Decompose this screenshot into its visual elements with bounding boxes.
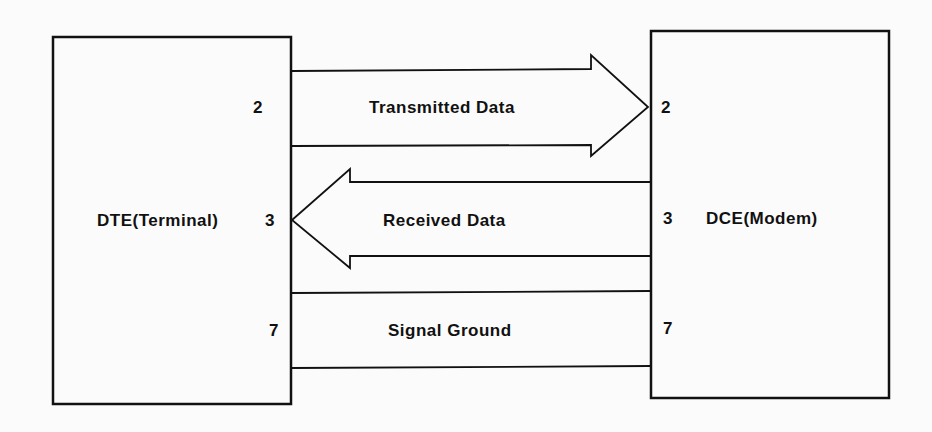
dte-pin-7: 7	[269, 321, 279, 341]
dce-pin-3: 3	[663, 209, 673, 229]
dce-pin-2: 2	[661, 98, 671, 118]
dce-pin-7: 7	[663, 319, 673, 339]
signal-ground-line-bottom	[292, 366, 650, 368]
dte-label: DTE(Terminal)	[97, 211, 218, 231]
transmitted-data-label: Transmitted Data	[369, 98, 515, 118]
received-data-label: Received Data	[383, 211, 506, 231]
signal-ground-line-top	[292, 291, 650, 293]
signal-ground-label: Signal Ground	[388, 321, 512, 341]
dte-pin-3: 3	[265, 211, 275, 231]
dce-label: DCE(Modem)	[706, 209, 818, 229]
dte-pin-2: 2	[253, 98, 263, 118]
